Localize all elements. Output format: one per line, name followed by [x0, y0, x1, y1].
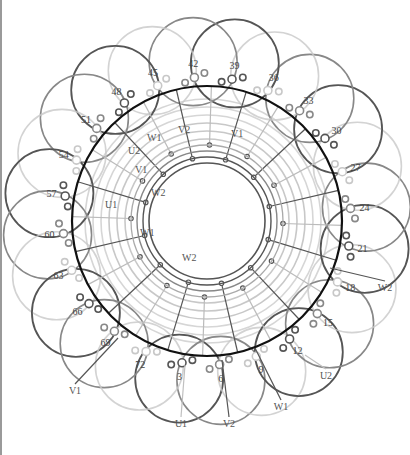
inner-terminal-label: U1	[105, 199, 117, 210]
slot-label: 9	[259, 364, 264, 375]
outer-lead-label: W2	[378, 282, 392, 293]
slot-label: 27	[351, 162, 361, 173]
slot-label: 3	[177, 371, 182, 382]
inner-terminal-label: V2	[178, 124, 190, 135]
slot-label: 6	[218, 373, 223, 384]
winding-diagram: 3691215182124273033363942454851545760636…	[0, 0, 410, 455]
slot-label: 57	[46, 188, 56, 199]
slot-label: 51	[81, 114, 91, 125]
coil-arcs	[4, 18, 410, 425]
slot-label: 33	[304, 95, 314, 106]
inner-terminal-label: U2	[128, 145, 140, 156]
outer-lead-label: U2	[320, 370, 332, 381]
inner-terminal-label: W1	[140, 227, 154, 238]
slot-label: 24	[359, 202, 369, 213]
inner-terminal-label: V1	[231, 128, 243, 139]
inner-terminal-label: V1	[135, 164, 147, 175]
slot-label: 63	[54, 270, 64, 281]
slot-label: 54	[59, 149, 69, 160]
slot-label: 72	[135, 359, 145, 370]
slot-label: 36	[269, 72, 279, 83]
slot-label: 18	[345, 282, 355, 293]
inner-terminal-label: W1	[147, 132, 161, 143]
light-phase-rings	[85, 99, 329, 343]
slot-label: 39	[229, 60, 239, 71]
slot-label: 45	[148, 67, 158, 78]
outer-lead-label: W1	[274, 401, 288, 412]
slot-label: 69	[100, 337, 110, 348]
slot-label: 15	[323, 317, 333, 328]
inner-terminal-label: W2	[182, 252, 196, 263]
outer-lead-label: V2	[223, 418, 235, 429]
inner-terminal-label: W2	[151, 187, 165, 198]
inner-connection-rings	[131, 145, 283, 297]
slot-label: 48	[111, 86, 121, 97]
slot-label: 30	[331, 125, 341, 136]
slot-label: 60	[45, 229, 55, 240]
stator-ring	[72, 86, 342, 356]
slot-label: 21	[358, 243, 368, 254]
slot-label: 66	[73, 306, 83, 317]
outer-lead-label: U1	[175, 418, 187, 429]
outer-lead-label: V1	[69, 385, 81, 396]
slot-label: 42	[188, 58, 198, 69]
slot-label: 12	[293, 345, 303, 356]
